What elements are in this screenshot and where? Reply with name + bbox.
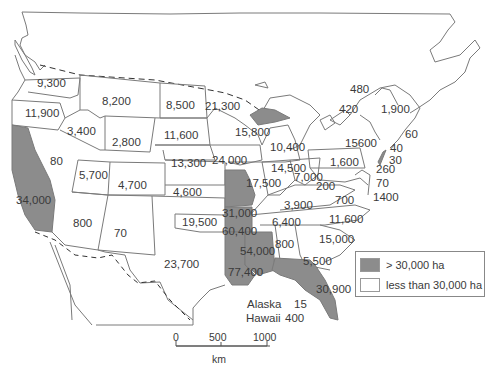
state-value-tn: 6,400: [272, 216, 301, 228]
state-value-wi: 15,800: [235, 126, 270, 138]
state-value-nh: 420: [339, 103, 358, 115]
canada-outline: [22, 12, 480, 113]
state-value-mo: 31,000: [222, 207, 257, 219]
state-value-ut: 5,700: [79, 169, 108, 181]
state-value-wy: 2,800: [112, 136, 141, 148]
state-value-ma: 60: [405, 128, 418, 140]
state-value-wv: 200: [316, 180, 335, 192]
state-value-md: 1400: [373, 191, 399, 203]
state-value-or: 11,900: [25, 107, 59, 119]
state-value-ks: 4,600: [173, 186, 202, 198]
state-value-co: 4,700: [118, 179, 147, 191]
state-value-ia: 24,000: [212, 154, 247, 166]
state-value-vt: 480: [350, 83, 369, 95]
map-legend: > 30,000 ha less than 30,000 ha: [355, 251, 485, 297]
state-value-al: 800: [275, 238, 294, 250]
state-value-ga: 5,500: [303, 255, 332, 267]
state-value-nc: 11,600: [329, 213, 363, 225]
state-value-wa: 9,300: [37, 77, 66, 89]
state-value-pa: 1,600: [330, 156, 359, 168]
state-value-mt: 8,200: [102, 95, 131, 107]
legend-swatch-low: [360, 278, 380, 292]
state-value-ne: 13,300: [171, 157, 206, 169]
scale-unit: km: [212, 353, 226, 365]
state-value-me: 1,900: [381, 103, 410, 115]
alaska-label: Alaska: [247, 298, 282, 310]
state-value-la: 77,400: [228, 266, 263, 278]
state-value-sc: 15,000: [319, 233, 354, 245]
state-value-nd: 8,500: [166, 99, 195, 111]
legend-label-high: > 30,000 ha: [386, 259, 444, 271]
hawaii-value: 400: [285, 312, 304, 324]
mexico-us-border: [35, 232, 190, 320]
legend-swatch-high: [360, 258, 380, 272]
state-value-nj: 260: [376, 163, 395, 175]
state-value-mi: 10,400: [270, 141, 305, 153]
state-michigan-up: [250, 108, 290, 125]
state-value-tx: 23,700: [164, 258, 199, 270]
legend-item-low: less than 30,000 ha: [360, 278, 482, 292]
state-value-de: 70: [376, 177, 389, 189]
state-california: [12, 125, 55, 232]
state-value-il: 17,500: [246, 177, 281, 189]
scale-tick-0: 0: [173, 331, 179, 343]
state-value-fl: 30,900: [316, 283, 351, 295]
state-value-az: 800: [73, 217, 92, 229]
state-value-ar: 60,400: [222, 225, 257, 237]
state-value-sd: 11,600: [164, 129, 198, 141]
state-value-va: 700: [335, 194, 354, 206]
alaska-value: 15: [294, 298, 307, 310]
legend-item-high: > 30,000 ha: [360, 258, 444, 272]
state-value-mn: 21,300: [205, 100, 240, 112]
state-value-ri: 40: [390, 142, 403, 154]
state-value-id: 3,400: [67, 125, 96, 137]
state-value-ok: 19,500: [182, 216, 217, 228]
state-value-nv: 80: [50, 155, 63, 167]
legend-label-low: less than 30,000 ha: [386, 279, 482, 291]
state-value-ca: 34,000: [16, 194, 51, 206]
state-value-ny: 15600: [345, 137, 377, 149]
state-value-nm: 70: [114, 227, 127, 239]
scale-tick-500: 500: [209, 331, 227, 343]
scale-tick-1000: 1000: [253, 331, 276, 343]
hawaii-label: Hawaii: [246, 312, 281, 324]
state-value-ky: 3,900: [284, 199, 313, 211]
state-value-ms: 54,000: [240, 245, 275, 257]
